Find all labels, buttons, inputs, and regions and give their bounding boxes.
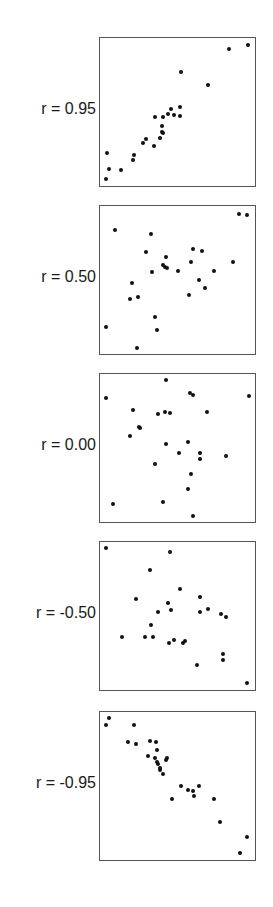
data-point: [172, 113, 176, 117]
data-point: [198, 451, 202, 455]
data-point: [191, 514, 195, 518]
data-point: [136, 295, 140, 299]
data-point: [152, 144, 156, 148]
data-point: [164, 758, 168, 762]
scatter-plot-panel: [99, 37, 256, 187]
data-point: [132, 723, 136, 727]
data-point: [221, 658, 225, 662]
data-point: [134, 597, 138, 601]
data-point: [165, 266, 169, 270]
scatter-plot-panel: [99, 205, 256, 355]
data-point: [169, 608, 173, 612]
data-point: [189, 472, 193, 476]
data-point: [104, 325, 108, 329]
data-point: [104, 396, 108, 400]
data-point: [191, 247, 195, 251]
data-point: [227, 47, 231, 51]
data-point: [224, 615, 228, 619]
data-point: [245, 835, 249, 839]
data-point: [167, 641, 171, 645]
data-point: [219, 612, 223, 616]
scatter-plot-panel: [99, 541, 256, 691]
data-point: [178, 114, 182, 118]
data-point: [212, 797, 216, 801]
data-point: [156, 610, 160, 614]
data-point: [131, 158, 135, 162]
data-point: [179, 70, 183, 74]
data-point: [143, 635, 147, 639]
data-point: [187, 293, 191, 297]
data-point: [197, 784, 201, 788]
data-point: [206, 607, 210, 611]
data-point: [130, 281, 134, 285]
data-point: [224, 454, 228, 458]
data-point: [176, 269, 180, 273]
data-point: [168, 550, 172, 554]
data-point: [148, 568, 152, 572]
scatter-row: r = -0.50: [0, 541, 273, 692]
data-point: [153, 115, 157, 119]
data-point: [164, 378, 168, 382]
data-point: [191, 393, 195, 397]
data-point: [128, 434, 132, 438]
data-point: [158, 136, 162, 140]
data-point: [164, 255, 168, 259]
data-point: [146, 754, 150, 758]
data-point: [179, 784, 183, 788]
data-point: [245, 681, 249, 685]
data-point: [200, 249, 204, 253]
data-point: [144, 250, 148, 254]
data-point: [195, 663, 199, 667]
data-point: [246, 43, 250, 47]
data-point: [183, 639, 187, 643]
data-point: [163, 410, 167, 414]
data-point: [169, 107, 173, 111]
data-point: [141, 141, 145, 145]
scatter-plot-panel: [99, 373, 256, 523]
data-point: [186, 487, 190, 491]
data-point: [107, 716, 111, 720]
data-point: [107, 167, 111, 171]
data-point: [104, 546, 108, 550]
data-point: [166, 601, 170, 605]
data-point: [155, 748, 159, 752]
data-point: [212, 269, 216, 273]
data-point: [113, 228, 117, 232]
data-point: [120, 635, 124, 639]
data-point: [231, 260, 235, 264]
data-point: [161, 500, 165, 504]
data-point: [151, 635, 155, 639]
data-point: [153, 462, 157, 466]
data-point: [138, 426, 142, 430]
correlation-label: r = -0.95: [0, 774, 96, 792]
data-point: [164, 442, 168, 446]
data-point: [170, 797, 174, 801]
data-point: [149, 623, 153, 627]
data-point: [161, 115, 165, 119]
data-point: [198, 595, 202, 599]
data-point: [203, 286, 207, 290]
data-point: [178, 587, 182, 591]
data-point: [168, 411, 172, 415]
data-point: [238, 851, 242, 855]
data-point: [191, 789, 195, 793]
data-point: [153, 756, 157, 760]
data-point: [131, 408, 135, 412]
scatter-plot-panel: [99, 711, 256, 861]
data-point: [144, 137, 148, 141]
data-point: [119, 168, 123, 172]
data-point: [186, 440, 190, 444]
scatter-row: r = 0.50: [0, 205, 273, 356]
data-point: [128, 297, 132, 301]
data-point: [178, 105, 182, 109]
data-point: [132, 153, 136, 157]
data-point: [156, 412, 160, 416]
data-point: [247, 394, 251, 398]
correlation-label: r = -0.50: [0, 604, 96, 622]
data-point: [161, 131, 165, 135]
data-point: [218, 820, 222, 824]
scatter-row: r = 0.95: [0, 37, 273, 188]
data-point: [126, 740, 130, 744]
data-point: [111, 502, 115, 506]
data-point: [189, 260, 193, 264]
